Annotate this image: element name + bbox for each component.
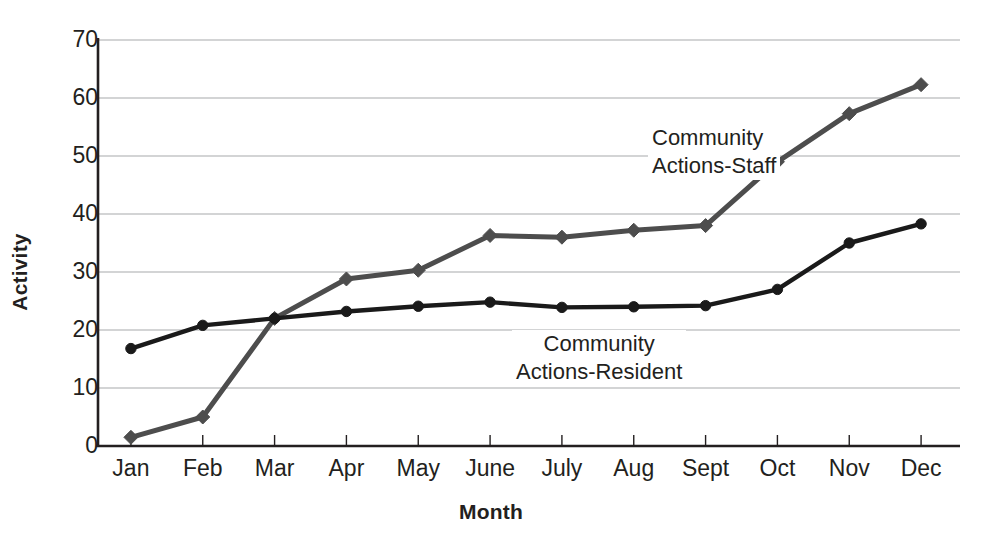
series-layer bbox=[124, 78, 928, 445]
x-tick-label: Aug bbox=[613, 455, 654, 481]
data-point-marker bbox=[198, 320, 208, 330]
x-tick-label: June bbox=[465, 455, 515, 481]
data-point-marker bbox=[485, 297, 495, 307]
data-point-marker bbox=[124, 430, 138, 444]
x-tick-label: Dec bbox=[901, 455, 942, 481]
series-annotation-resident-line2: Actions-Resident bbox=[516, 358, 682, 386]
series-annotation-resident-line1: Community bbox=[516, 330, 682, 358]
data-point-marker bbox=[772, 284, 782, 294]
line-chart: Activity 010203040506070 JanFebMarAprMay… bbox=[0, 0, 982, 543]
data-point-marker bbox=[126, 343, 136, 353]
data-point-marker bbox=[413, 301, 423, 311]
x-tick-label: Sept bbox=[682, 455, 729, 481]
x-axis-ticks bbox=[131, 435, 921, 446]
x-tick-label: July bbox=[541, 455, 582, 481]
data-point-marker bbox=[916, 219, 926, 229]
x-tick-label: Apr bbox=[329, 455, 365, 481]
x-tick-label: Oct bbox=[760, 455, 796, 481]
x-tick-label: May bbox=[397, 455, 440, 481]
data-point-marker bbox=[341, 306, 351, 316]
data-point-marker bbox=[700, 300, 710, 310]
series-annotation-resident: Community Actions-Resident bbox=[512, 330, 686, 386]
x-tick-label: Mar bbox=[255, 455, 295, 481]
data-point-marker bbox=[627, 223, 641, 237]
x-tick-label: Feb bbox=[183, 455, 223, 481]
data-point-marker bbox=[269, 313, 279, 323]
data-point-marker bbox=[914, 78, 928, 92]
x-tick-label: Nov bbox=[829, 455, 870, 481]
x-axis-tick-labels: JanFebMarAprMayJuneJulyAugSeptOctNovDec bbox=[0, 455, 982, 495]
x-axis-title-label: Month bbox=[459, 500, 523, 523]
series-annotation-staff-line2: Actions-Staff bbox=[652, 152, 776, 180]
series-staff bbox=[124, 78, 928, 445]
series-annotation-staff-line1: Community bbox=[652, 124, 776, 152]
data-point-marker bbox=[629, 302, 639, 312]
series-annotation-staff: Community Actions-Staff bbox=[648, 124, 780, 180]
x-axis-title: Month bbox=[0, 500, 982, 524]
x-tick-label: Jan bbox=[112, 455, 149, 481]
data-point-marker bbox=[844, 238, 854, 248]
data-point-marker bbox=[557, 302, 567, 312]
data-point-marker bbox=[555, 230, 569, 244]
